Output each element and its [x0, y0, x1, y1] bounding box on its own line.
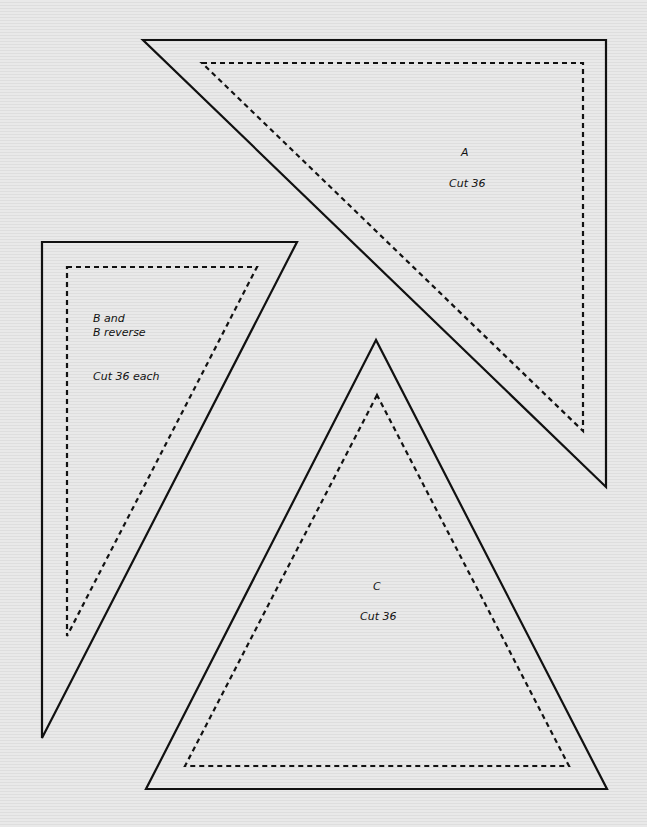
piece-c-letter: C — [373, 580, 381, 594]
piece-b-label-line1: B and — [93, 312, 125, 326]
piece-b-cut-line — [42, 242, 297, 738]
piece-c-cut-line — [146, 340, 607, 789]
piece-a-letter: A — [461, 146, 469, 160]
piece-a-seam-line — [202, 63, 583, 431]
piece-c-cut-count: Cut 36 — [360, 610, 396, 624]
pattern-diagram — [0, 0, 647, 827]
piece-a-cut-line — [143, 40, 606, 487]
piece-b-cut-count: Cut 36 each — [93, 370, 159, 384]
piece-b-label-line2: B reverse — [93, 326, 146, 340]
piece-a-cut-count: Cut 36 — [449, 177, 485, 191]
